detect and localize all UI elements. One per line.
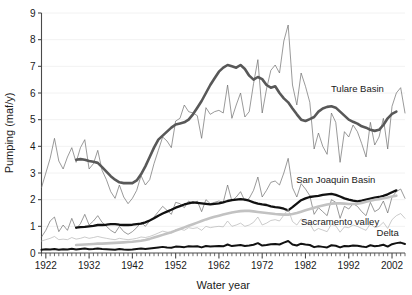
x-axis-title: Water year xyxy=(197,279,251,291)
series-label-sacramento-valley: Sacramento valley xyxy=(301,216,379,227)
series-label-delta: Delta xyxy=(377,227,400,238)
x-tick-label-1962: 1962 xyxy=(208,260,231,271)
y-tick-label-5: 5 xyxy=(30,114,36,125)
x-tick-label-1982: 1982 xyxy=(294,260,317,271)
y-tick-label-8: 8 xyxy=(30,34,36,45)
y-tick-label-2: 2 xyxy=(30,194,36,205)
x-tick-label-1972: 1972 xyxy=(251,260,274,271)
x-tick-label-1932: 1932 xyxy=(78,260,101,271)
x-tick-label-1942: 1942 xyxy=(121,260,144,271)
y-tick-label-3: 3 xyxy=(30,168,36,179)
pumping-time-series-chart: 0123456789192219321942195219621972198219… xyxy=(0,0,412,295)
y-tick-label-1: 1 xyxy=(30,221,36,232)
y-tick-label-7: 7 xyxy=(30,61,36,72)
x-tick-label-1952: 1952 xyxy=(165,260,188,271)
x-tick-label-1992: 1992 xyxy=(338,260,361,271)
chart-figure: 0123456789192219321942195219621972198219… xyxy=(0,0,412,295)
series-label-tulare-basin: Tulare Basin xyxy=(331,83,384,94)
series-label-san-joaquin-basin: San Joaquin Basin xyxy=(296,174,375,185)
y-tick-label-0: 0 xyxy=(30,248,36,259)
x-tick-label-1922: 1922 xyxy=(35,260,58,271)
y-tick-label-9: 9 xyxy=(30,8,36,19)
y-axis-title: Pumping (maf/y) xyxy=(3,93,15,174)
x-tick-label-2002: 2002 xyxy=(381,260,404,271)
y-tick-label-4: 4 xyxy=(30,141,36,152)
y-tick-label-6: 6 xyxy=(30,88,36,99)
